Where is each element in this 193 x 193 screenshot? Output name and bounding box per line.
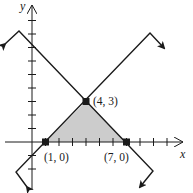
point-label-7-0: (7, 0) <box>104 151 129 164</box>
graph-figure: y x (1, 0) (4, 3) (7, 0) <box>0 0 193 193</box>
point-label-1-0: (1, 0) <box>44 151 69 164</box>
y-axis-label: y <box>19 0 26 13</box>
point-label-4-3: (4, 3) <box>93 95 118 108</box>
shaded-region <box>46 102 127 143</box>
vertex-point-4-3 <box>83 98 90 105</box>
x-axis-label: x <box>179 147 186 161</box>
vertex-point-1-0 <box>42 139 49 146</box>
y-axis <box>28 5 36 190</box>
vertex-point-7-0 <box>123 139 130 146</box>
